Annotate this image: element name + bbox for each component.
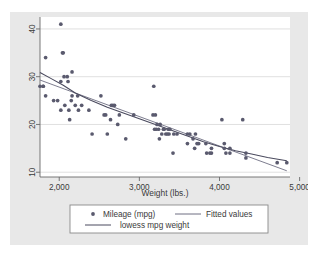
data-point (73, 104, 77, 108)
legend-entry-label: lowess mpg weight (120, 221, 190, 230)
data-point (194, 132, 198, 136)
data-point (157, 127, 161, 131)
data-point (285, 161, 289, 165)
data-point (67, 108, 71, 112)
figure-card: 10203040 2,0003,0004,0005,000 Weight (lb… (10, 12, 308, 245)
data-point (76, 94, 80, 98)
data-point (90, 132, 94, 136)
data-point (59, 22, 63, 26)
x-tick-label: 2,000 (49, 183, 70, 192)
legend-entry-label: Mileage (mpg) (103, 210, 156, 219)
legend-marker-icon (91, 212, 95, 216)
data-point (116, 123, 120, 127)
data-point (109, 118, 113, 122)
data-point (228, 146, 232, 150)
data-point (113, 104, 117, 108)
data-point (222, 142, 226, 146)
data-point (63, 104, 67, 108)
x-tick-label: 5,000 (289, 183, 308, 192)
data-point (38, 84, 42, 88)
data-point (204, 142, 208, 146)
data-point (56, 99, 60, 103)
y-tick-label: 20 (29, 119, 38, 129)
data-point (162, 127, 166, 131)
data-point (44, 56, 48, 60)
data-point (193, 146, 197, 150)
data-point (68, 118, 72, 122)
data-point (87, 108, 91, 112)
data-point (155, 123, 159, 127)
data-point (228, 151, 232, 155)
data-point (99, 94, 103, 98)
data-point (222, 146, 226, 150)
scatter-plot-svg: 10203040 2,0003,0004,0005,000 Weight (lb… (10, 12, 308, 245)
data-point (175, 132, 179, 136)
data-point (154, 113, 158, 117)
data-point (224, 151, 228, 155)
data-point (117, 113, 121, 117)
data-point (167, 132, 171, 136)
data-point (59, 80, 63, 84)
data-point (80, 104, 84, 108)
y-tick-label: 10 (29, 167, 38, 177)
data-point (244, 151, 248, 155)
data-point (104, 113, 108, 117)
data-point (105, 132, 109, 136)
data-point (160, 132, 164, 136)
data-point (132, 113, 136, 117)
data-point (41, 84, 45, 88)
data-point (158, 123, 162, 127)
data-point (69, 99, 73, 103)
chart-figure: 10203040 2,0003,0004,0005,000 Weight (lb… (10, 12, 308, 245)
x-tick-label: 4,000 (209, 183, 230, 192)
data-point (220, 118, 224, 122)
data-point (188, 132, 192, 136)
data-point (210, 151, 214, 155)
data-point (168, 127, 172, 131)
data-point (124, 137, 128, 141)
y-tick-label: 30 (29, 72, 38, 82)
data-point (65, 75, 69, 79)
data-point (191, 137, 195, 141)
data-point (61, 51, 65, 55)
data-point (152, 84, 156, 88)
data-point (62, 75, 66, 79)
y-tick-label: 40 (29, 24, 38, 34)
data-point (241, 118, 245, 122)
data-point (70, 70, 74, 74)
data-point (44, 94, 48, 98)
data-point (186, 142, 190, 146)
legend-entry-label: Fitted values (206, 210, 252, 219)
data-point (275, 161, 279, 165)
data-point (52, 99, 56, 103)
data-point (172, 132, 176, 136)
data-point (210, 146, 214, 150)
data-point (197, 142, 201, 146)
data-point (244, 156, 248, 160)
data-point (77, 108, 81, 112)
data-point (158, 137, 162, 141)
x-axis-title: Weight (lbs.) (142, 188, 189, 198)
data-point (70, 94, 74, 98)
data-point (59, 108, 63, 112)
data-point (66, 80, 70, 84)
data-point (171, 151, 175, 155)
data-point (205, 151, 209, 155)
